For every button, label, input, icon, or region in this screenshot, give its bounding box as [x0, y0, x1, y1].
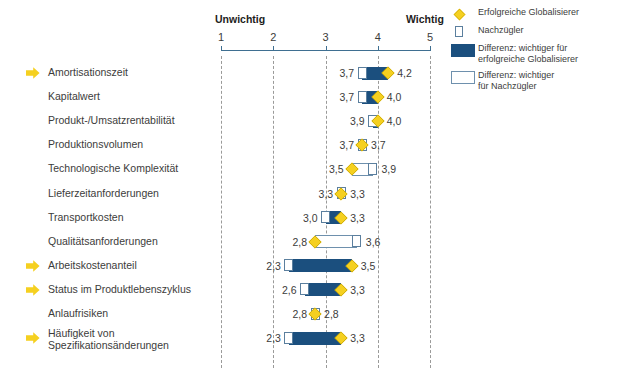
axis-caption-left: Unwichtig [215, 13, 265, 25]
legend-item: Differenz: wichtigerfür Nachzügler [450, 71, 618, 93]
row-label: Produkt-/Umsatzrentabilität [48, 115, 175, 127]
row-value-right: 3,3 [350, 332, 376, 344]
row-value-right: 3,3 [350, 188, 376, 200]
row-value-right: 3,7 [371, 139, 397, 151]
importance-comparison-chart: Unwichtig Wichtig 12345 Amortisationszei… [0, 0, 618, 375]
row-label: Transportkosten [48, 212, 123, 224]
legend-label-line: erfolgreiche Globalisierer [478, 54, 578, 65]
row-label-line: Status im Produktlebenszyklus [48, 284, 191, 296]
axis-caption-right: Wichtig [406, 13, 444, 25]
highlight-arrow-icon [26, 332, 40, 344]
row-label: Arbeitskostenanteil [48, 260, 137, 272]
row-value-right: 4,0 [387, 115, 413, 127]
marker-nachzuegler [368, 163, 377, 175]
legend-label: Nachzügler [478, 25, 524, 36]
row-label-line: Häufigkeit von [48, 328, 169, 340]
row-value-left: 3,9 [339, 115, 365, 127]
marker-nachzuegler [300, 283, 309, 295]
row-label-line: Technologische Komplexität [48, 163, 178, 175]
legend-hollow-bar-icon [451, 71, 475, 84]
row-value-left: 3,7 [328, 91, 354, 103]
row-value-right: 3,9 [382, 163, 408, 175]
row-label: Produktionsvolumen [48, 139, 143, 151]
axis-tick-label: 1 [211, 31, 231, 43]
axis-tick [326, 46, 327, 51]
row-label-line: Produktionsvolumen [48, 139, 143, 151]
row-label: Lieferzeitanforderungen [48, 188, 159, 200]
gridline [430, 56, 431, 368]
legend-label: Erfolgreiche Globalisierer [478, 7, 579, 18]
row-label: Kapitalwert [48, 91, 100, 103]
legend-label-line: Nachzügler [478, 25, 524, 36]
row-value-left: 3,7 [328, 139, 354, 151]
row-value-left: 3,7 [328, 67, 354, 79]
legend-label: Differenz: wichtigerfür Nachzügler [478, 70, 554, 91]
legend-label-line: Differenz: wichtiger [478, 70, 554, 81]
row-label-line: Amortisationszeit [48, 67, 128, 79]
axis-tick-label: 5 [420, 31, 440, 43]
row-value-right: 4,2 [397, 67, 423, 79]
row-label-line: Anlaufrisiken [48, 308, 108, 320]
legend-label-line: Differenz: wichtiger für [478, 43, 578, 54]
row-value-left: 3,0 [292, 212, 318, 224]
legend-label-line: für Nachzügler [478, 81, 554, 92]
marker-nachzuegler [321, 211, 330, 223]
row-label-line: Spezifikationsänderungen [48, 340, 169, 352]
legend-filled-bar-icon [451, 44, 475, 57]
marker-nachzuegler [352, 235, 361, 247]
row-value-right: 3,6 [366, 236, 392, 248]
row-label-line: Transportkosten [48, 212, 123, 224]
row-label: Qualitätsanforderungen [48, 236, 158, 248]
highlight-arrow-icon [26, 67, 40, 79]
axis-tick [378, 46, 379, 51]
difference-bar-globalisierer [289, 332, 341, 345]
marker-nachzuegler [358, 67, 367, 79]
legend-item: Differenz: wichtiger fürerfolgreiche Glo… [450, 44, 618, 66]
marker-nachzuegler [358, 91, 367, 103]
row-value-left: 3,3 [307, 188, 333, 200]
axis-tick-label: 4 [368, 31, 388, 43]
row-label: Häufigkeit vonSpezifikationsänderungen [48, 328, 169, 351]
row-label: Anlaufrisiken [48, 308, 108, 320]
row-value-left: 2,3 [255, 332, 281, 344]
row-value-left: 3,5 [318, 163, 344, 175]
legend-item: Erfolgreiche Globalisierer [450, 8, 618, 21]
legend-label-line: Erfolgreiche Globalisierer [478, 7, 579, 18]
row-value-left: 2,8 [281, 308, 307, 320]
marker-nachzuegler [284, 259, 293, 271]
axis-tick [221, 46, 222, 51]
gridline [273, 56, 274, 368]
legend-square-icon [455, 26, 463, 37]
row-value-right: 3,3 [350, 284, 376, 296]
axis-tick [273, 46, 274, 51]
row-label-line: Kapitalwert [48, 91, 100, 103]
row-label-line: Produkt-/Umsatzrentabilität [48, 115, 175, 127]
row-label: Amortisationszeit [48, 67, 128, 79]
legend-item: Nachzügler [450, 26, 618, 39]
highlight-arrow-icon [26, 260, 40, 272]
marker-nachzuegler [284, 332, 293, 344]
row-label-line: Arbeitskostenanteil [48, 260, 137, 272]
row-value-right: 3,5 [361, 260, 387, 272]
row-value-right: 4,0 [387, 91, 413, 103]
legend-label: Differenz: wichtiger fürerfolgreiche Glo… [478, 43, 578, 64]
difference-bar-globalisierer [289, 259, 352, 272]
row-value-left: 2,8 [281, 236, 307, 248]
row-label-line: Lieferzeitanforderungen [48, 188, 159, 200]
row-label-line: Qualitätsanforderungen [48, 236, 158, 248]
axis-tick-label: 2 [263, 31, 283, 43]
row-value-right: 2,8 [324, 308, 350, 320]
row-label: Status im Produktlebenszyklus [48, 284, 191, 296]
row-value-right: 3,3 [350, 212, 376, 224]
chart-legend: Erfolgreiche GlobalisiererNachzüglerDiff… [450, 8, 618, 98]
row-value-left: 2,3 [255, 260, 281, 272]
axis-tick [430, 46, 431, 51]
axis-tick-label: 3 [316, 31, 336, 43]
legend-diamond-icon [454, 9, 466, 21]
highlight-arrow-icon [26, 284, 40, 296]
gridline [221, 56, 222, 368]
row-label: Technologische Komplexität [48, 163, 178, 175]
row-value-left: 2,6 [271, 284, 297, 296]
